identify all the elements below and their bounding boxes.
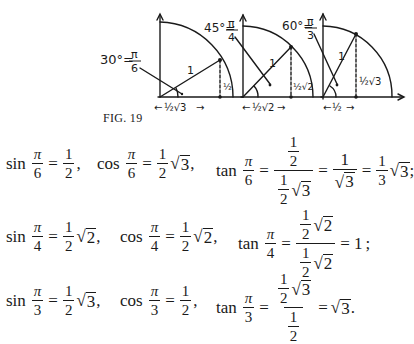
equation-row-pi-3: sin π3 = 12 √3 , cos π3 = 12 , tan π3 = … <box>0 272 414 332</box>
svg-text:6: 6 <box>131 62 138 75</box>
svg-text:3: 3 <box>307 29 314 42</box>
adj-label: ½√3 <box>164 102 186 113</box>
cos-pi-6: cos π6 = 12 √3 , <box>97 147 194 181</box>
tan-pi-4: tan π4 = 12√2 12√2 = 1 ; <box>238 208 370 280</box>
tan-pi-6: tan π6 = 12 12√3 = 1√3 = 13 √3 ; <box>216 135 414 207</box>
tan-pi-3: tan π3 = 12√3 12 = √3 . <box>216 272 355 344</box>
hyp-label: 1 <box>187 64 194 77</box>
svg-text:←: ← <box>323 102 331 113</box>
svg-text:π: π <box>307 15 314 28</box>
unit-circle-figure: 30°= π 6 1 ½ ½√3 ←→ 45°= π 4 1 ½√2 ½√2 ←… <box>0 0 414 125</box>
svg-text:→: → <box>346 102 354 113</box>
svg-text:→: → <box>196 102 204 113</box>
cos-pi-3: cos π3 = 12 , <box>120 284 198 318</box>
panel-60-degrees <box>314 14 404 100</box>
svg-text:½: ½ <box>332 102 342 113</box>
cos-pi-4: cos π4 = 12 √2 , <box>120 220 217 254</box>
svg-text:½√2: ½√2 <box>252 102 274 113</box>
svg-text:←: ← <box>154 102 162 113</box>
svg-text:½√3: ½√3 <box>359 76 381 87</box>
svg-text:→: → <box>277 102 285 113</box>
svg-text:←: ← <box>242 102 250 113</box>
sin-pi-3: sin π3 = 12 √3 , <box>6 284 101 318</box>
svg-text:4: 4 <box>228 31 235 44</box>
svg-text:1: 1 <box>269 57 276 70</box>
opp-label: ½ <box>223 82 232 92</box>
svg-text:π: π <box>131 48 138 61</box>
sin-pi-6: sin π6 = 12 , <box>6 147 81 181</box>
sin-pi-4: sin π4 = 12 √2 , <box>6 220 101 254</box>
angle-label-30: 30°= <box>100 52 134 67</box>
figure-caption: FIG. 19 <box>103 111 142 126</box>
svg-text:1: 1 <box>338 50 345 63</box>
svg-text:½√2: ½√2 <box>293 82 313 92</box>
equation-row-pi-4: sin π4 = 12 √2 , cos π4 = 12 √2 , tan π4… <box>0 208 414 263</box>
svg-text:π: π <box>228 17 235 30</box>
equation-row-pi-6: sin π6 = 12 , cos π6 = 12 √3 , tan π6 = … <box>0 135 414 195</box>
